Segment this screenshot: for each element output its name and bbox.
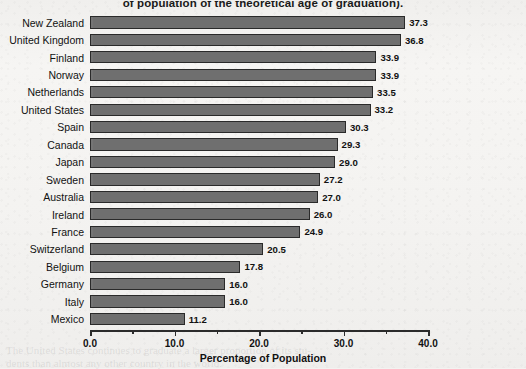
bar [90,138,338,150]
bar-value-label: 33.5 [377,84,396,101]
category-label: Ireland [0,206,84,223]
x-axis-major-tick [259,330,261,336]
bar-value-label: 20.5 [267,241,286,258]
bar-row: Ireland26.0 [0,206,526,223]
x-axis-minor-tick [132,330,134,334]
bar-value-label: 24.9 [304,223,323,240]
x-axis-major-tick [344,330,346,336]
category-label: United Kingdom [0,31,84,48]
x-axis-minor-tick [217,330,219,334]
bar-value-label: 36.8 [405,31,424,48]
bar-row: Germany16.0 [0,276,526,293]
bar-value-label: 27.2 [324,171,343,188]
bar-value-label: 29.0 [339,154,358,171]
bar-value-label: 33.2 [375,101,394,118]
bar [90,313,185,325]
x-axis-minor-tick [301,330,303,334]
bar [90,16,405,28]
bar-row: United Kingdom36.8 [0,31,526,48]
x-axis-minor-tick [386,330,388,334]
x-axis-major-tick [175,330,177,336]
category-label: Switzerland [0,241,84,258]
category-label: Italy [0,293,84,310]
category-label: Canada [0,136,84,153]
bar-row: Spain30.3 [0,119,526,136]
category-label: United States [0,101,84,118]
bar-row: New Zealand37.3 [0,14,526,31]
x-axis-major-tick [90,330,92,336]
x-axis-major-tick [428,330,430,336]
bar [90,86,373,98]
category-label: Netherlands [0,84,84,101]
x-axis-tick-label: 30.0 [319,338,369,349]
x-axis-title: Percentage of Population [0,352,526,364]
x-axis: Percentage of Population 0.010.020.030.0… [0,330,526,368]
bar-value-label: 30.3 [350,119,369,136]
bar [90,278,225,290]
bar [90,243,263,255]
bar [90,34,401,46]
x-axis-tick-label: 20.0 [234,338,284,349]
chart-plot-area: New Zealand37.3United Kingdom36.8Finland… [0,14,526,326]
category-label: Japan [0,154,84,171]
bar [90,226,300,238]
bar [90,156,335,168]
bar [90,121,346,133]
bar [90,173,320,185]
category-label: Sweden [0,171,84,188]
category-label: Belgium [0,258,84,275]
bar-row: Netherlands33.5 [0,84,526,101]
x-axis-tick-label: 40.0 [403,338,453,349]
bar-row: Norway33.9 [0,66,526,83]
bar-value-label: 37.3 [409,14,428,31]
bar-value-label: 29.3 [342,136,361,153]
bar [90,191,318,203]
bar-row: France24.9 [0,223,526,240]
bar [90,104,371,116]
category-label: Spain [0,119,84,136]
bar [90,295,225,307]
bar-row: United States33.2 [0,101,526,118]
bar-row: Mexico11.2 [0,310,526,327]
bar-value-label: 33.9 [380,49,399,66]
bar-value-label: 33.9 [380,66,399,83]
bar-row: Belgium17.8 [0,258,526,275]
bar-value-label: 26.0 [314,206,333,223]
category-label: Mexico [0,310,84,327]
bar-value-label: 11.2 [189,310,207,327]
category-label: Norway [0,66,84,83]
bar-value-label: 27.0 [322,188,341,205]
x-axis-tick-label: 10.0 [150,338,200,349]
bar-row: Australia27.0 [0,188,526,205]
bar-row: Japan29.0 [0,154,526,171]
bar-row: Finland33.9 [0,49,526,66]
bar-row: Switzerland20.5 [0,241,526,258]
category-label: Germany [0,276,84,293]
bar-row: Italy16.0 [0,293,526,310]
category-label: France [0,223,84,240]
bar-row: Canada29.3 [0,136,526,153]
chart-title: of population of the theoretical age of … [0,0,526,9]
bar-value-label: 16.0 [229,276,248,293]
bar-value-label: 16.0 [229,293,248,310]
bar [90,69,376,81]
category-label: New Zealand [0,14,84,31]
category-label: Finland [0,49,84,66]
bar-value-label: 17.8 [244,258,263,275]
category-label: Australia [0,188,84,205]
bar [90,261,240,273]
bar [90,208,310,220]
x-axis-tick-label: 0.0 [65,338,115,349]
bar [90,51,376,63]
bar-row: Sweden27.2 [0,171,526,188]
